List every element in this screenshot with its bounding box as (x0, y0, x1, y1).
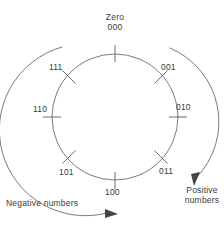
tick-101 (63, 151, 76, 164)
label-101: 101 (59, 167, 74, 177)
positive-direction-arrowhead (191, 172, 200, 186)
label-positive-line1: Positive (181, 185, 223, 195)
label-100: 100 (105, 187, 120, 197)
tick-111 (63, 71, 76, 84)
tick-011 (155, 151, 168, 164)
number-circle (52, 54, 178, 180)
label-zero-code: 000 (93, 22, 137, 32)
positive-direction-arc (170, 48, 219, 178)
label-zero: Zero 000 (93, 12, 137, 32)
negative-direction-arrowhead (105, 209, 118, 218)
label-negative-numbers: Negative numbers (6, 198, 78, 208)
label-011: 011 (159, 166, 173, 176)
label-110: 110 (33, 104, 47, 114)
tick-001 (155, 71, 168, 84)
number-circle-diagram: Zero 000 001 010 011 100 101 110 111 Neg… (0, 0, 224, 230)
label-010: 010 (176, 102, 191, 112)
label-positive-line2: numbers (181, 195, 223, 205)
label-001: 001 (161, 62, 176, 72)
label-111: 111 (49, 62, 63, 72)
label-zero-word: Zero (93, 12, 137, 22)
label-positive-numbers: Positive numbers (181, 185, 223, 205)
